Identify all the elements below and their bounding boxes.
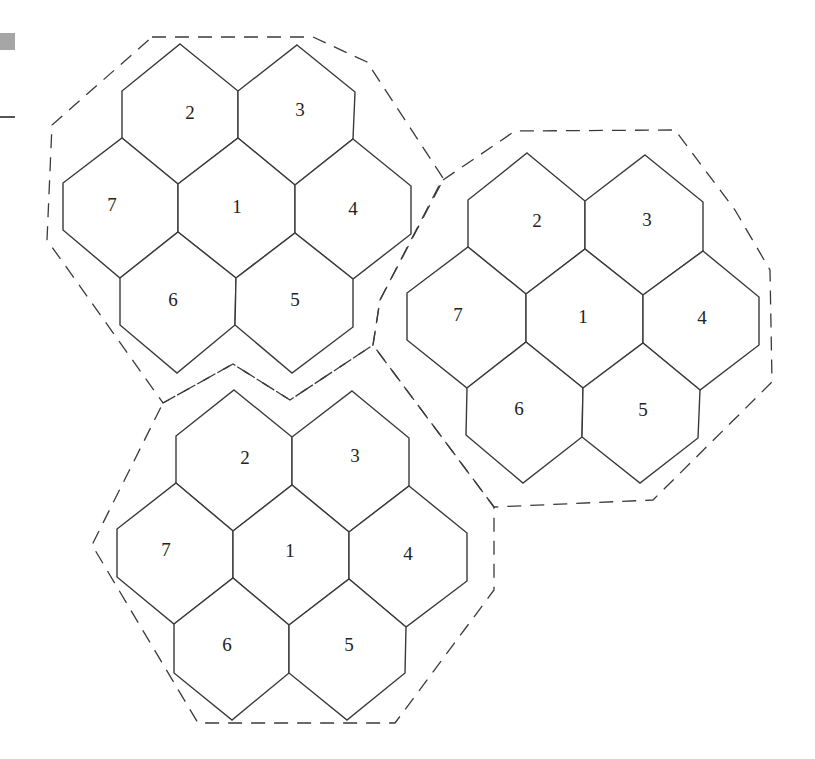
cluster-top-left-cell-label-2: 2 — [185, 102, 195, 123]
cluster-right-cell-label-5: 5 — [638, 399, 648, 420]
cluster-bottom-cell-label-5: 5 — [344, 634, 354, 655]
cluster-bottom-cell-label-2: 2 — [240, 447, 250, 468]
hexagon-cluster-diagram: 237146523714652371465 — [0, 0, 815, 759]
cluster-right-cell-label-7: 7 — [453, 304, 463, 325]
cluster-right-cell-label-4: 4 — [697, 307, 707, 328]
cluster-bottom-cell-label-6: 6 — [222, 634, 232, 655]
cluster-top-left-cell-label-4: 4 — [348, 198, 358, 219]
cluster-right-cell-label-2: 2 — [532, 210, 542, 231]
cluster-right-cell-label-1: 1 — [578, 306, 588, 327]
cluster-bottom-cell-label-7: 7 — [161, 539, 171, 560]
cluster-top-left-cell-label-6: 6 — [168, 289, 178, 310]
cluster-bottom-cell-label-1: 1 — [285, 540, 295, 561]
hexagon-cells — [63, 44, 759, 720]
cluster-top-left-cell-label-3: 3 — [295, 99, 305, 120]
cluster-bottom-cell-label-3: 3 — [350, 445, 360, 466]
cluster-right-cell-label-6: 6 — [514, 398, 524, 419]
cluster-right-cell-label-3: 3 — [642, 209, 652, 230]
cluster-top-left-cell-label-5: 5 — [290, 289, 300, 310]
cluster-top-left-cell-label-1: 1 — [232, 196, 242, 217]
cluster-top-left-cell-label-7: 7 — [107, 194, 117, 215]
cluster-bottom-cell-label-4: 4 — [403, 543, 413, 564]
